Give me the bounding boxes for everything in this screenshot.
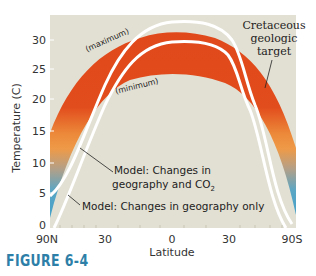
y-tick-15: 15 (32, 125, 46, 138)
svg-text:target: target (257, 45, 292, 58)
model-co2-label-line1: Model: Changes in (114, 164, 211, 176)
svg-text:geologic: geologic (250, 32, 297, 45)
x-tick-labels: 90N 30 0 30 90S (36, 233, 303, 246)
y-tick-30: 30 (32, 34, 46, 47)
figure-label: FIGURE 6-4 (6, 251, 88, 270)
y-tick-labels: 0 5 10 15 20 25 30 (32, 34, 46, 232)
x-axis-label: Latitude (149, 246, 195, 259)
svg-text:Cretaceous: Cretaceous (242, 19, 306, 32)
y-tick-25: 25 (32, 63, 46, 76)
chart-figure: 0 5 10 15 20 25 30 Temperature (C) 90N 3… (0, 0, 316, 276)
y-tick-5: 5 (39, 187, 46, 200)
x-tick-0: 0 (169, 233, 176, 246)
model-geo-label: Model: Changes in geography only (82, 200, 264, 212)
y-axis-label: Temperature (C) (10, 83, 23, 173)
x-tick-30n: 30 (98, 233, 112, 246)
x-tick-90s: 90S (282, 233, 303, 246)
y-tick-10: 10 (32, 157, 46, 170)
x-tick-30s: 30 (222, 233, 236, 246)
y-tick-0: 0 (39, 219, 46, 232)
y-tick-20: 20 (32, 93, 46, 106)
x-tick-90n: 90N (36, 233, 58, 246)
